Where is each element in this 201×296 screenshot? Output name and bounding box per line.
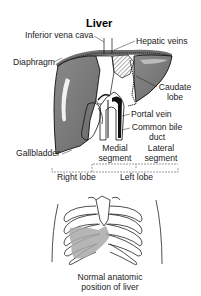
lobe-brackets (52, 164, 178, 172)
label-lateral-line-2: segment (142, 153, 180, 163)
label-caudate-lobe: Caudate lobe (158, 82, 192, 102)
label-inferior-vena-cava: Inferior vena cava (25, 30, 93, 40)
label-common-bile-line-1: Common bile (130, 122, 184, 132)
label-right-lobe: Right lobe (57, 172, 96, 182)
caption: Normal anatomic position of liver (72, 272, 148, 292)
label-gallbladder: Gallbladder (16, 148, 60, 158)
label-common-bile-line-2: duct (130, 132, 184, 142)
label-caudate-line-2: lobe (158, 92, 192, 102)
label-common-bile-duct: Common bile duct (130, 122, 184, 142)
label-lateral-line-1: Lateral (142, 143, 180, 153)
label-hepatic-veins: Hepatic veins (136, 36, 188, 46)
label-portal-vein: Portal vein (131, 109, 172, 119)
diagram-title: Liver (86, 17, 112, 29)
liver-position-shape (69, 226, 110, 259)
caption-line-2: position of liver (72, 282, 148, 292)
label-medial-segment: Medial segment (96, 143, 134, 163)
label-medial-line-2: segment (96, 153, 134, 163)
caption-line-1: Normal anatomic (72, 272, 148, 282)
label-left-lobe: Left lobe (120, 172, 153, 182)
right-lobe-shape (54, 56, 100, 154)
label-lateral-segment: Lateral segment (142, 143, 180, 163)
label-caudate-line-1: Caudate (158, 82, 192, 92)
label-medial-line-1: Medial (96, 143, 134, 153)
label-diaphragm: Diaphragm (13, 57, 55, 67)
